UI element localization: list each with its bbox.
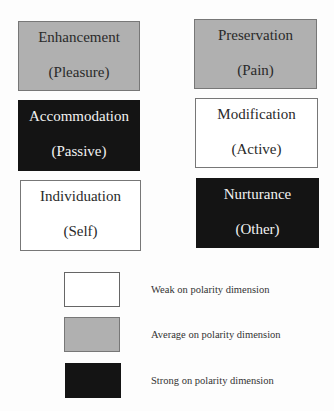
legend-swatch-average <box>64 317 120 352</box>
legend-swatch-strong <box>65 363 121 398</box>
box-subtitle: (Passive) <box>52 144 107 159</box>
enhancement-box: Enhancement (Pleasure) <box>18 21 140 91</box>
modification-box: Modification (Active) <box>195 98 318 168</box>
box-title: Preservation <box>218 28 293 43</box>
box-title: Accommodation <box>29 109 129 124</box>
preservation-box: Preservation (Pain) <box>194 19 317 89</box>
box-title: Individuation <box>40 189 121 204</box>
box-subtitle: (Self) <box>63 224 97 239</box>
box-title: Modification <box>217 107 295 122</box>
legend-swatch-weak <box>64 272 120 307</box>
box-subtitle: (Other) <box>235 222 279 237</box>
box-subtitle: (Active) <box>232 142 282 157</box>
accommodation-box: Accommodation (Passive) <box>18 100 140 171</box>
box-subtitle: (Pleasure) <box>49 65 110 80</box>
legend-label-weak: Weak on polarity dimension <box>151 284 269 295</box>
box-subtitle: (Pain) <box>237 63 274 78</box>
nurturance-box: Nurturance (Other) <box>196 178 319 248</box>
box-title: Enhancement <box>38 30 120 45</box>
legend-label-strong: Strong on polarity dimension <box>151 375 274 386</box>
individuation-box: Individuation (Self) <box>20 180 141 251</box>
legend-label-average: Average on polarity dimension <box>151 329 281 340</box>
box-title: Nurturance <box>224 187 291 202</box>
